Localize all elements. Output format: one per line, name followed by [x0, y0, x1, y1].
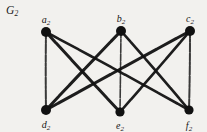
graph-title-subscript: 2: [15, 9, 19, 18]
vertex-label-subscript-e2: 2: [120, 125, 124, 132]
vertex-label-f2: f2: [186, 121, 192, 132]
vertex-label-a2: a2: [42, 15, 51, 27]
vertex-a2: [41, 27, 51, 37]
edge-b2-e2: [120, 31, 121, 112]
vertex-label-c2: c2: [186, 14, 194, 26]
vertex-d2: [41, 105, 51, 115]
edges-group: [46, 31, 190, 112]
vertex-label-subscript-c2: 2: [190, 18, 194, 26]
vertex-label-subscript-f2: 2: [189, 125, 193, 132]
graph-canvas: [0, 0, 207, 132]
vertex-e2: [115, 107, 124, 116]
vertex-label-subscript-b2: 2: [122, 18, 126, 26]
graph-title-base: G: [6, 4, 15, 16]
vertex-label-subscript-a2: 2: [47, 19, 51, 27]
vertex-label-d2: d2: [42, 120, 51, 132]
vertex-label-subscript-d2: 2: [47, 124, 51, 132]
graph-title-label: G2: [6, 5, 18, 17]
vertex-label-e2: e2: [116, 121, 124, 132]
vertex-c2: [185, 26, 195, 36]
vertex-label-b2: b2: [117, 14, 126, 26]
edge-c2-f2: [189, 31, 190, 110]
vertex-b2: [116, 26, 126, 36]
vertex-f2: [184, 105, 193, 114]
graph-figure: G2 a2b2c2d2e2f2: [0, 0, 207, 132]
